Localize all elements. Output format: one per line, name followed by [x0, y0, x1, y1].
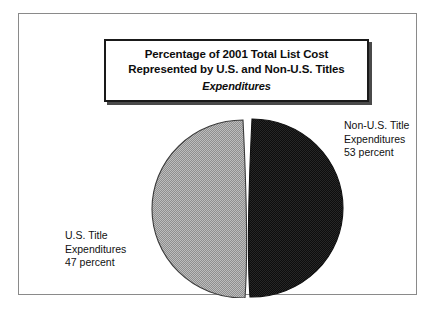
chart-title-line-1: Percentage of 2001 Total List Cost [106, 47, 367, 62]
pie-chart [149, 112, 345, 298]
callout-label-us: U.S. Title Expenditures 47 percent [65, 229, 126, 270]
pie-slice-us [152, 120, 247, 298]
chart-subtitle: Expenditures [106, 77, 367, 94]
callout-us-value: 47 percent [65, 256, 126, 270]
pie-slice-non-us [248, 119, 343, 297]
callout-us-line-1: U.S. Title [65, 229, 126, 243]
callout-non-us-value: 53 percent [344, 146, 409, 160]
callout-us-line-2: Expenditures [65, 243, 126, 257]
chart-title-box: Percentage of 2001 Total List Cost Repre… [104, 39, 369, 102]
chart-title-line-2: Represented by U.S. and Non-U.S. Titles [106, 62, 367, 77]
figure-frame: Percentage of 2001 Total List Cost Repre… [18, 13, 417, 295]
callout-non-us-line-1: Non-U.S. Title [344, 119, 409, 133]
callout-label-non-us: Non-U.S. Title Expenditures 53 percent [344, 119, 409, 160]
callout-non-us-line-2: Expenditures [344, 133, 409, 147]
